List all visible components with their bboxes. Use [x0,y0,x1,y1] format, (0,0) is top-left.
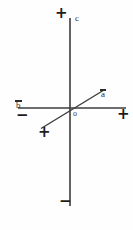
b-negative-sign: − [16,108,29,123]
a-vector-label: a [101,89,105,99]
axes-diagram: + c a b − + o + − [0,0,133,230]
a-vector-label-wrapper: a [101,84,105,100]
c-negative-sign: − [59,194,72,209]
b-positive-sign: + [117,107,130,122]
c-axis-label: c [75,14,79,23]
a-positive-sign: + [38,125,51,140]
c-positive-sign: + [55,6,68,21]
origin-label: o [73,110,77,118]
